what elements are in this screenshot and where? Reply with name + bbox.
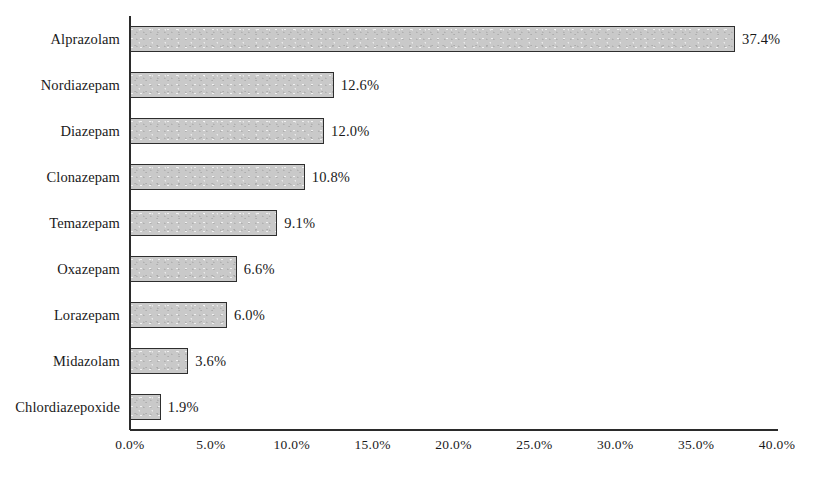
bar bbox=[130, 348, 188, 374]
x-axis-tick-label: 25.0% bbox=[516, 437, 552, 453]
bar-row: Alprazolam37.4% bbox=[130, 16, 777, 62]
x-axis-tick-label: 35.0% bbox=[678, 437, 714, 453]
bar-value-label: 1.9% bbox=[168, 399, 199, 416]
bar bbox=[130, 210, 277, 236]
bar-row: Midazolam3.6% bbox=[130, 338, 777, 384]
bar bbox=[130, 118, 324, 144]
category-label: Clonazepam bbox=[47, 169, 120, 186]
bar-chart: Alprazolam37.4%Nordiazepam12.6%Diazepam1… bbox=[0, 0, 814, 487]
x-axis-tick-label: 15.0% bbox=[354, 437, 390, 453]
bar-value-label: 9.1% bbox=[284, 215, 315, 232]
category-label: Midazolam bbox=[53, 353, 120, 370]
x-axis-tick-label: 10.0% bbox=[274, 437, 310, 453]
bar-value-label: 6.6% bbox=[244, 261, 275, 278]
category-label: Diazepam bbox=[60, 123, 120, 140]
bar-value-label: 10.8% bbox=[312, 169, 350, 186]
bar-row: Lorazepam6.0% bbox=[130, 292, 777, 338]
category-label: Nordiazepam bbox=[41, 77, 120, 94]
bar-value-label: 6.0% bbox=[234, 307, 265, 324]
bar-row: Oxazepam6.6% bbox=[130, 246, 777, 292]
category-label: Lorazepam bbox=[54, 307, 120, 324]
plot-area: Alprazolam37.4%Nordiazepam12.6%Diazepam1… bbox=[130, 16, 777, 430]
category-label: Temazepam bbox=[49, 215, 120, 232]
x-axis-tick-label: 40.0% bbox=[759, 437, 795, 453]
bar bbox=[130, 164, 305, 190]
bar bbox=[130, 72, 334, 98]
x-axis-tick-label: 0.0% bbox=[115, 437, 144, 453]
bar-row: Diazepam12.0% bbox=[130, 108, 777, 154]
bar-value-label: 12.6% bbox=[341, 77, 379, 94]
bar bbox=[130, 256, 237, 282]
bar-row: Clonazepam10.8% bbox=[130, 154, 777, 200]
x-axis-tick-label: 20.0% bbox=[435, 437, 471, 453]
category-label: Oxazepam bbox=[57, 261, 120, 278]
bar-value-label: 3.6% bbox=[195, 353, 226, 370]
bar bbox=[130, 26, 735, 52]
bar-value-label: 37.4% bbox=[742, 31, 780, 48]
x-axis-tick-label: 5.0% bbox=[196, 437, 225, 453]
bar-row: Temazepam9.1% bbox=[130, 200, 777, 246]
category-label: Alprazolam bbox=[51, 31, 120, 48]
category-label: Chlordiazepoxide bbox=[15, 399, 120, 416]
bar-value-label: 12.0% bbox=[331, 123, 369, 140]
bar bbox=[130, 394, 161, 420]
bar bbox=[130, 302, 227, 328]
bar-row: Nordiazepam12.6% bbox=[130, 62, 777, 108]
bar-row: Chlordiazepoxide1.9% bbox=[130, 384, 777, 430]
x-axis-tick-label: 30.0% bbox=[597, 437, 633, 453]
